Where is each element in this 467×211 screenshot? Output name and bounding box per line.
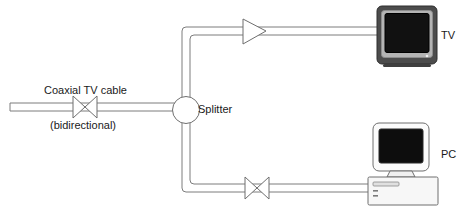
- tv-label: TV: [441, 29, 455, 42]
- bidirectional-valve-main: [73, 96, 97, 118]
- television: [377, 6, 437, 67]
- topology-diagram: [0, 0, 467, 211]
- tv-screen: [385, 14, 429, 53]
- cable-to-pc: [182, 123, 382, 192]
- cable-to-tv: [182, 27, 388, 98]
- pc-monitor-screen: [379, 129, 423, 163]
- pc-case: [368, 177, 438, 205]
- pc-drive-slot: [373, 182, 399, 186]
- bidirectional-valve-pc: [245, 177, 269, 199]
- splitter-label: Splitter: [198, 103, 232, 116]
- pc-front-mark-1: [373, 190, 378, 192]
- tv-stand: [383, 64, 431, 67]
- diagram-canvas: Coaxial TV cable (bidirectional) Splitte…: [0, 0, 467, 211]
- coaxial-cable-label: Coaxial TV cable: [44, 84, 127, 97]
- pc-front-mark-2: [373, 195, 378, 197]
- cable-trunk: [10, 103, 186, 111]
- personal-computer: [368, 123, 438, 205]
- amplifier-tv: [243, 19, 266, 44]
- pc-monitor-stand: [387, 171, 415, 177]
- tv-power-indicator: [426, 55, 429, 58]
- splitter-node: [173, 97, 200, 124]
- pc-label: PC: [441, 148, 456, 161]
- bidirectional-label: (bidirectional): [50, 119, 116, 132]
